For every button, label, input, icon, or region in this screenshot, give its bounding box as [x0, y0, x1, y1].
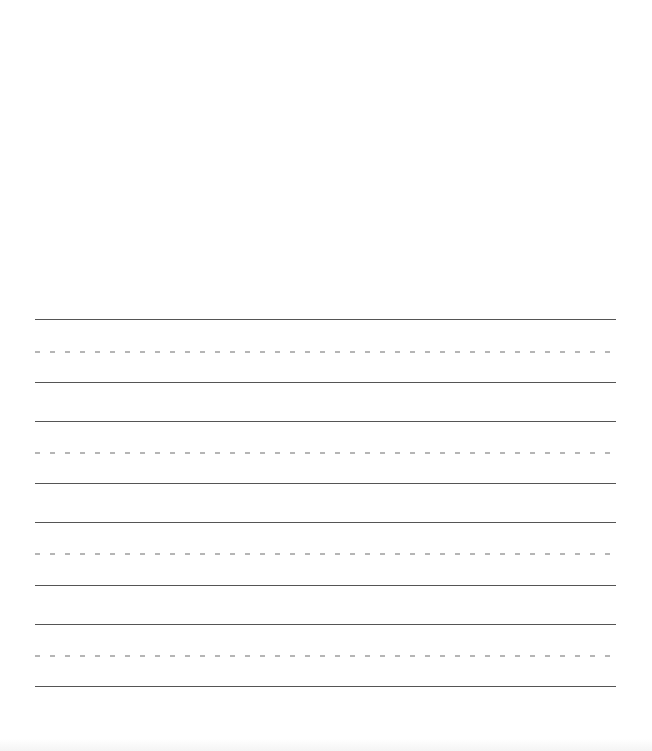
- top-line: [35, 522, 616, 523]
- top-line: [35, 319, 616, 320]
- baseline: [35, 686, 616, 687]
- midline: [35, 452, 616, 454]
- baseline: [35, 382, 616, 383]
- page-edge-shadow: [0, 739, 652, 751]
- top-line: [35, 421, 616, 422]
- practice-sheet: [0, 0, 652, 751]
- midline: [35, 553, 616, 555]
- midline: [35, 655, 616, 657]
- midline: [35, 351, 616, 353]
- baseline: [35, 585, 616, 586]
- top-line: [35, 624, 616, 625]
- baseline: [35, 483, 616, 484]
